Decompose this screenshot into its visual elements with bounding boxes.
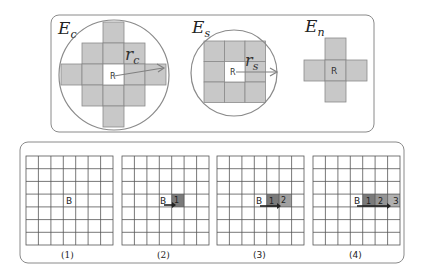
en-center-label: R [331, 66, 337, 76]
grid-step-1: B [26, 156, 113, 245]
caption-step-4: (4) [349, 250, 362, 260]
grid-step-2: B 1 [122, 156, 209, 245]
step-number: 2 [378, 197, 383, 206]
step-number: 3 [393, 196, 399, 206]
ec-center-label: R [110, 72, 116, 81]
ec-title: Ec [57, 18, 77, 41]
es-center-label: R [230, 68, 236, 77]
caption-step-2: (2) [157, 250, 170, 260]
step-number: 2 [281, 196, 286, 205]
start-label: B [354, 196, 360, 206]
grid-step-4: B 1 2 3 [313, 156, 400, 245]
diagram-canvas: Ec R rc Es R rs En R [0, 0, 423, 274]
en-title: En [304, 16, 325, 39]
step-number: 1 [366, 197, 371, 206]
step-number: 1 [174, 196, 179, 205]
start-label: B [66, 196, 72, 206]
start-label: B [256, 196, 262, 206]
es-title: Es [191, 17, 210, 40]
caption-step-3: (3) [253, 250, 266, 260]
grid-step-3: B 1 2 [217, 156, 304, 245]
step-number: 1 [269, 197, 274, 206]
caption-step-1: (1) [61, 250, 74, 260]
